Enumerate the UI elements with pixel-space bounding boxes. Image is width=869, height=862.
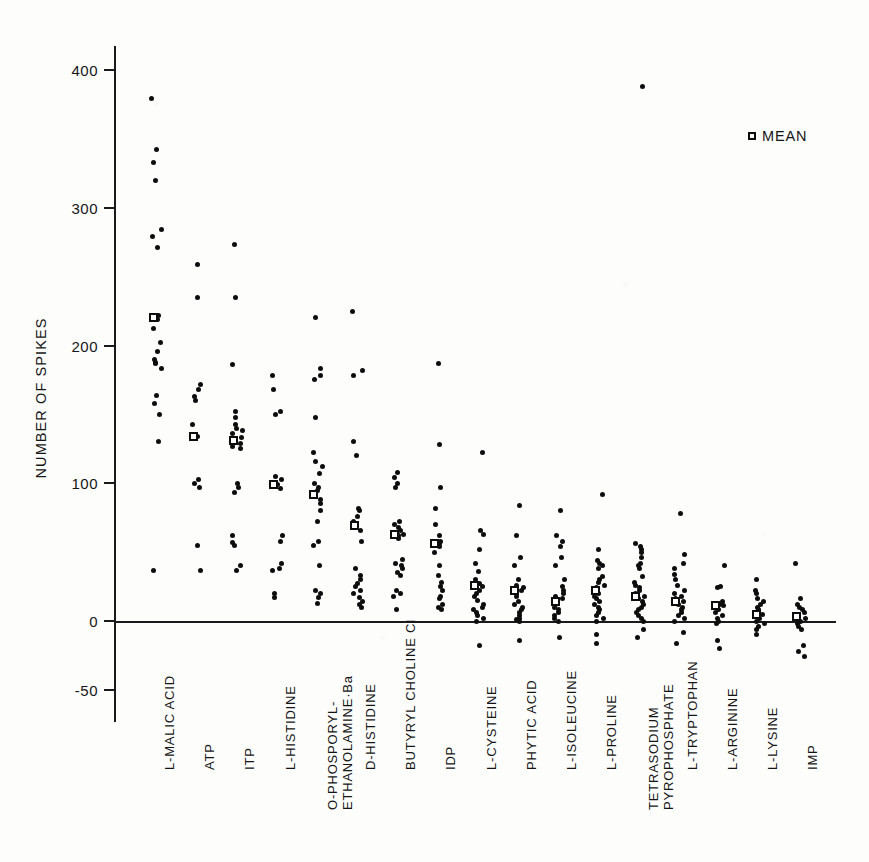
x-category-label: ATP xyxy=(202,743,217,770)
data-point xyxy=(317,563,322,568)
data-point xyxy=(562,577,567,582)
data-point xyxy=(596,547,601,552)
data-point xyxy=(318,591,323,596)
data-point xyxy=(514,533,519,538)
data-point xyxy=(638,561,643,566)
data-point xyxy=(313,315,318,320)
data-point xyxy=(279,477,284,482)
data-point xyxy=(234,568,239,573)
data-point xyxy=(636,613,641,618)
data-point xyxy=(192,481,197,486)
data-point xyxy=(519,588,524,593)
data-point xyxy=(716,607,721,612)
data-point xyxy=(718,584,723,589)
data-point xyxy=(639,547,644,552)
data-point xyxy=(270,568,275,573)
data-point xyxy=(359,605,364,610)
data-point xyxy=(438,485,443,490)
data-point xyxy=(601,616,606,621)
data-point xyxy=(596,605,601,610)
data-point xyxy=(481,602,486,607)
data-point xyxy=(439,607,444,612)
data-point xyxy=(358,588,363,593)
mean-marker xyxy=(671,597,680,606)
data-point xyxy=(757,616,762,621)
x-category-label: O-PHOSPORYL-ETHANOLAMINE·Ba xyxy=(326,675,356,810)
data-point xyxy=(672,572,677,577)
data-point xyxy=(395,470,400,475)
data-point xyxy=(754,591,759,596)
data-point xyxy=(437,596,442,601)
data-point xyxy=(517,638,522,643)
data-point xyxy=(474,591,479,596)
data-point xyxy=(318,366,323,371)
data-point xyxy=(636,563,641,568)
data-point xyxy=(315,488,320,493)
data-point xyxy=(641,602,646,607)
data-point xyxy=(639,616,644,621)
data-point xyxy=(558,508,563,513)
data-point xyxy=(433,522,438,527)
x-category-label: TETRASODIUMPYROPHOSPHATE xyxy=(647,684,677,810)
data-point xyxy=(802,610,807,615)
data-point xyxy=(796,624,801,629)
data-point xyxy=(674,641,679,646)
data-point xyxy=(272,591,277,596)
data-point xyxy=(153,360,158,365)
y-tick-mark xyxy=(104,207,115,209)
data-point xyxy=(234,426,239,431)
data-point xyxy=(158,340,163,345)
data-point xyxy=(640,84,645,89)
data-point xyxy=(280,533,285,538)
data-point xyxy=(393,485,398,490)
data-point xyxy=(514,591,519,596)
data-point xyxy=(639,550,644,555)
legend: MEAN xyxy=(748,128,808,144)
data-point xyxy=(517,503,522,508)
data-point xyxy=(150,234,155,239)
data-point xyxy=(635,635,640,640)
data-point xyxy=(277,566,282,571)
data-point xyxy=(556,610,561,615)
data-point xyxy=(594,641,599,646)
data-point xyxy=(754,627,759,632)
data-point xyxy=(754,577,759,582)
data-point xyxy=(471,607,476,612)
mean-marker xyxy=(149,313,158,322)
x-category-label: IDP xyxy=(443,746,458,770)
data-point xyxy=(394,530,399,535)
mean-marker xyxy=(510,586,519,595)
mean-marker xyxy=(711,601,720,610)
data-point xyxy=(155,245,160,250)
data-point xyxy=(720,613,725,618)
data-point xyxy=(512,602,517,607)
data-point xyxy=(232,242,237,247)
data-point xyxy=(596,566,601,571)
data-point xyxy=(230,533,235,538)
x-category-label-line: L-MALIC ACID xyxy=(162,675,177,770)
x-category-label-line: L-TRYPTOPHAN xyxy=(685,660,700,770)
data-point xyxy=(481,616,486,621)
data-point xyxy=(600,492,605,497)
data-point xyxy=(155,349,160,354)
data-point xyxy=(477,547,482,552)
data-point xyxy=(679,594,684,599)
y-tick-label: 200 xyxy=(71,337,98,354)
data-point xyxy=(682,616,687,621)
data-point xyxy=(355,514,360,519)
data-point xyxy=(517,616,522,621)
x-category-label: L-HISTIDINE xyxy=(283,685,298,770)
data-point xyxy=(798,596,803,601)
data-point xyxy=(717,646,722,651)
data-point xyxy=(357,508,362,513)
data-point xyxy=(715,585,720,590)
data-point xyxy=(473,577,478,582)
x-category-label-line: PHYTIC ACID xyxy=(524,680,539,770)
data-point xyxy=(803,616,808,621)
data-point xyxy=(197,485,202,490)
data-point xyxy=(521,585,526,590)
x-category-label: L-PROLINE xyxy=(604,694,619,770)
data-point xyxy=(317,471,322,476)
data-point xyxy=(636,596,641,601)
data-point xyxy=(678,511,683,516)
